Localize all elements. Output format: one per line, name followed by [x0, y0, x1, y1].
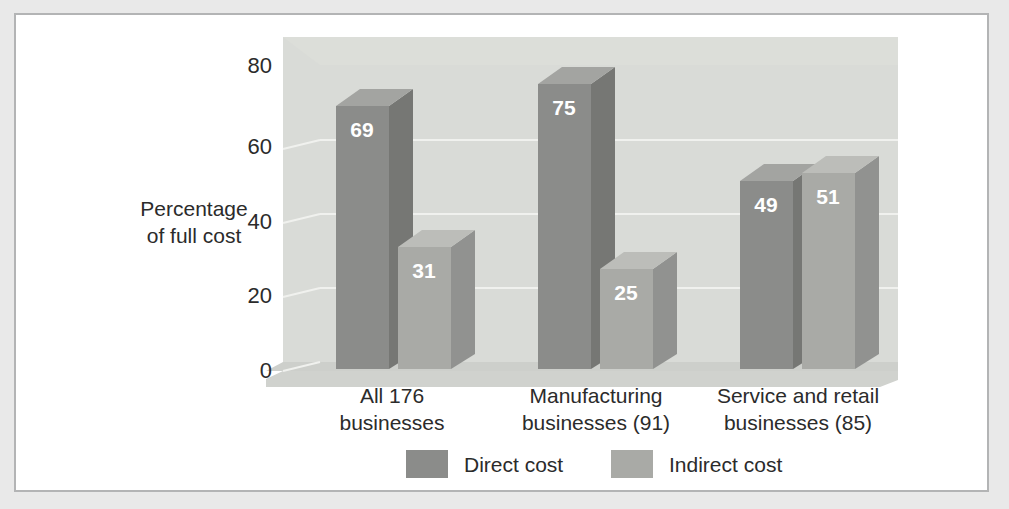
- bar-front-face: [336, 106, 389, 369]
- category-label-line1: Manufacturing: [529, 384, 662, 407]
- bar-chart-3d: 80 60 40 20 0 Percentage of full cost 69: [14, 13, 989, 492]
- category-label-line2: businesses (91): [522, 411, 670, 434]
- category-label-line1: Service and retail: [717, 384, 879, 407]
- bar-value-label: 31: [412, 259, 436, 282]
- y-axis-title-line2: of full cost: [147, 224, 242, 247]
- legend-item-direct-cost[interactable]: Direct cost: [406, 450, 563, 478]
- bar-value-label: 49: [754, 193, 777, 216]
- bar-value-label: 75: [552, 96, 576, 119]
- y-axis-title-line1: Percentage: [140, 197, 247, 220]
- category-label-all-176: All 176 businesses: [339, 384, 444, 434]
- page-frame: 80 60 40 20 0 Percentage of full cost 69: [0, 0, 1009, 509]
- bar-indirect-service-retail[interactable]: 51: [802, 156, 879, 369]
- category-label-line2: businesses: [339, 411, 444, 434]
- bar-side-face: [855, 156, 879, 369]
- plot-top-bevel: [283, 37, 898, 65]
- bar-front-face: [538, 84, 591, 369]
- ytick-label-20: 20: [248, 283, 272, 308]
- legend-label-indirect-cost: Indirect cost: [669, 453, 782, 476]
- ytick-label-0: 0: [260, 358, 272, 383]
- category-label-line2: businesses (85): [724, 411, 872, 434]
- chart-svg: 80 60 40 20 0 Percentage of full cost 69: [14, 13, 989, 492]
- legend-item-indirect-cost[interactable]: Indirect cost: [611, 450, 782, 478]
- category-label-line1: All 176: [360, 384, 424, 407]
- category-label-service-retail: Service and retail businesses (85): [717, 384, 879, 434]
- bar-indirect-all-176[interactable]: 31: [398, 230, 475, 369]
- bar-group-service-retail: 49 51: [740, 156, 879, 369]
- bar-value-label: 25: [614, 281, 638, 304]
- legend-swatch-indirect-cost: [611, 450, 653, 478]
- legend: Direct cost Indirect cost: [406, 450, 782, 478]
- category-label-manufacturing: Manufacturing businesses (91): [522, 384, 670, 434]
- bar-side-face: [451, 230, 475, 369]
- legend-swatch-direct-cost: [406, 450, 448, 478]
- ytick-label-40: 40: [248, 209, 272, 234]
- ytick-label-80: 80: [248, 53, 272, 78]
- legend-label-direct-cost: Direct cost: [464, 453, 563, 476]
- bar-value-label: 69: [350, 118, 373, 141]
- bar-value-label: 51: [816, 185, 840, 208]
- bar-side-face: [653, 252, 677, 369]
- ytick-label-60: 60: [248, 134, 272, 159]
- bar-indirect-manufacturing[interactable]: 25: [600, 252, 677, 369]
